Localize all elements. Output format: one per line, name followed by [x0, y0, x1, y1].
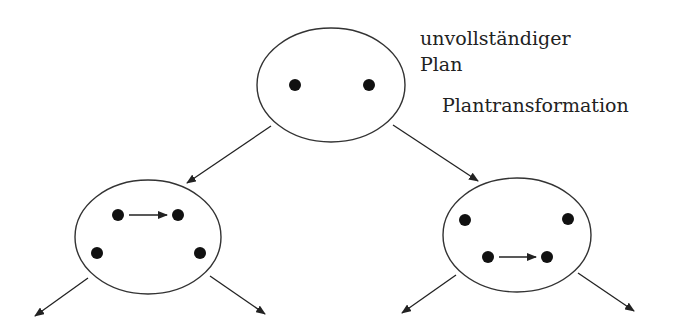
- step-dot: [363, 79, 375, 91]
- step-dot: [91, 247, 103, 259]
- edge-arrow: [393, 125, 478, 181]
- step-dot: [289, 79, 301, 91]
- step-dot: [562, 213, 574, 225]
- label-incomplete-plan-line1: unvollständiger: [420, 27, 571, 49]
- step-dot: [172, 209, 184, 221]
- node-ellipse: [75, 180, 221, 294]
- step-dot: [541, 251, 553, 263]
- plan-tree-diagram: unvollständiger Plan Plantransformation: [0, 0, 691, 334]
- edge-arrow: [35, 278, 88, 316]
- edge-arrow: [187, 126, 271, 183]
- node-ellipse: [443, 178, 591, 292]
- step-dot: [459, 214, 471, 226]
- label-plan-transformation: Plantransformation: [442, 94, 629, 116]
- edge-arrow: [210, 276, 265, 314]
- step-dot: [482, 251, 494, 263]
- step-dot: [194, 247, 206, 259]
- node-ellipse: [257, 28, 405, 142]
- label-incomplete-plan-line2: Plan: [420, 53, 462, 75]
- step-dot: [112, 209, 124, 221]
- edge-arrow: [402, 275, 456, 313]
- plan-nodes: [75, 28, 591, 294]
- transformation-edges: [35, 125, 634, 316]
- plan-node-root: [257, 28, 405, 142]
- plan-node-right-child: [443, 178, 591, 292]
- plan-node-left-child: [75, 180, 221, 294]
- edge-arrow: [578, 273, 634, 311]
